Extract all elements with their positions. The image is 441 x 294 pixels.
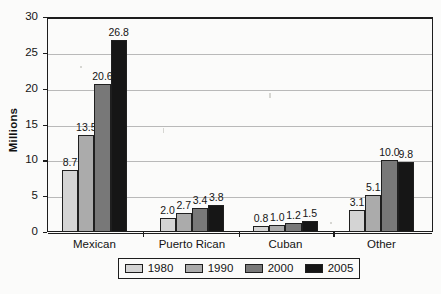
chart-page: Millions 8.713.520.626.82.02.73.43.80.81… [0,0,441,294]
y-axis-tick-label: 10 [4,155,38,167]
legend-label: 2005 [328,263,354,275]
bar [349,210,365,232]
legend-item: 2005 [305,263,354,275]
y-axis-tick-label: 30 [4,11,38,23]
bar [302,221,318,232]
y-axis-tick-label: 20 [4,83,38,95]
legend-label: 1990 [208,263,234,275]
y-axis-tick-label: 0 [4,226,38,238]
bar-value-label: 9.8 [392,149,420,160]
legend-swatch [125,264,143,273]
legend-item: 1990 [185,263,234,275]
bar [94,84,110,232]
legend-item: 2000 [245,263,294,275]
y-axis-tick-mark [43,17,47,18]
y-axis-tick-mark [43,53,47,54]
legend-label: 2000 [268,263,294,275]
bar [285,223,301,232]
bar [269,225,285,232]
chart-legend: 1980199020002005 [118,258,360,279]
bar [78,135,94,232]
y-axis-tick-label: 5 [4,190,38,202]
bar [192,208,208,232]
legend-swatch [185,264,203,273]
bar [111,40,127,232]
legend-item: 1980 [125,263,174,275]
x-axis-category-label: Other [321,239,441,251]
legend-swatch [245,264,263,273]
bar [160,218,176,232]
y-axis-tick-mark [43,196,47,197]
x-axis-tick-mark [143,232,144,237]
y-axis-tick-label: 25 [4,47,38,59]
bar-value-label: 26.8 [105,27,133,38]
bar-value-label: 1.5 [296,208,324,219]
x-axis-tick-mark [333,232,334,237]
y-axis-tick-mark [43,89,47,90]
bar [365,195,381,232]
legend-label: 1980 [148,263,174,275]
y-axis-tick-mark [43,160,47,161]
bar [398,162,414,232]
y-axis-tick-label: 15 [4,119,38,131]
x-axis-tick-mark [239,232,240,237]
bar [176,213,192,232]
legend-swatch [305,264,323,273]
y-axis-tick-mark [43,232,47,233]
bar-value-label: 3.8 [202,192,230,203]
y-axis-tick-mark [43,125,47,126]
bar [208,205,224,232]
bar [253,226,269,232]
bar [62,170,78,232]
bar [381,160,397,232]
